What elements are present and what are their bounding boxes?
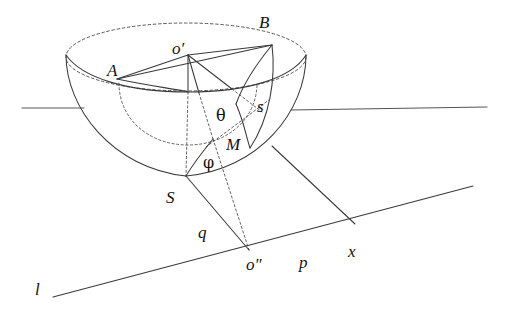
figure-canvas	[0, 0, 508, 332]
segment-q-line	[186, 176, 249, 250]
bowl-rim-ellipse	[66, 23, 306, 91]
label-point-a: A	[107, 62, 117, 79]
wedge-meridian-from-b	[236, 45, 272, 104]
label-o-prime: o′	[172, 40, 184, 57]
label-point-b: B	[259, 14, 269, 31]
label-angle-phi: φ	[203, 155, 214, 171]
geometry-figure: o′ A B θ s M φ S q o″ p x l	[0, 0, 508, 332]
label-point-s: S	[166, 189, 175, 206]
radius-o-prime-to-a	[117, 55, 188, 79]
label-axis-x: x	[348, 243, 356, 260]
wedge-edge-ab-chord	[117, 45, 272, 79]
label-line-l: l	[35, 281, 40, 298]
label-segment-p: p	[299, 254, 308, 271]
label-angle-theta: θ	[216, 108, 226, 124]
bowl-outer-left-edge	[66, 55, 186, 176]
axis-o-prime-to-s-dashed	[186, 92, 188, 176]
line-o-prime-sector-edge	[188, 55, 232, 89]
line-bowl-to-ground	[272, 146, 355, 224]
bowl-inner-lip-arc	[66, 55, 306, 92]
horizon-line-right	[291, 107, 487, 110]
line-m-to-o-double-prime	[213, 139, 249, 250]
line-o-prime-to-m-dashed	[199, 93, 213, 139]
radius-o-prime-to-b	[188, 45, 272, 55]
ground-line-l	[53, 186, 473, 297]
line-o-prime-to-m	[188, 55, 199, 93]
label-arc-s: s	[257, 98, 264, 115]
label-point-m: M	[226, 136, 240, 153]
label-segment-q: q	[198, 224, 207, 241]
label-o-double-prime: o″	[246, 256, 262, 273]
